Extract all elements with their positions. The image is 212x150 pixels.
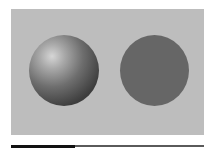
progress-bar[interactable] [11,145,204,147]
shaded-sphere [29,35,99,106]
progress-bar-fill [11,145,75,148]
flat-circle [120,35,189,106]
